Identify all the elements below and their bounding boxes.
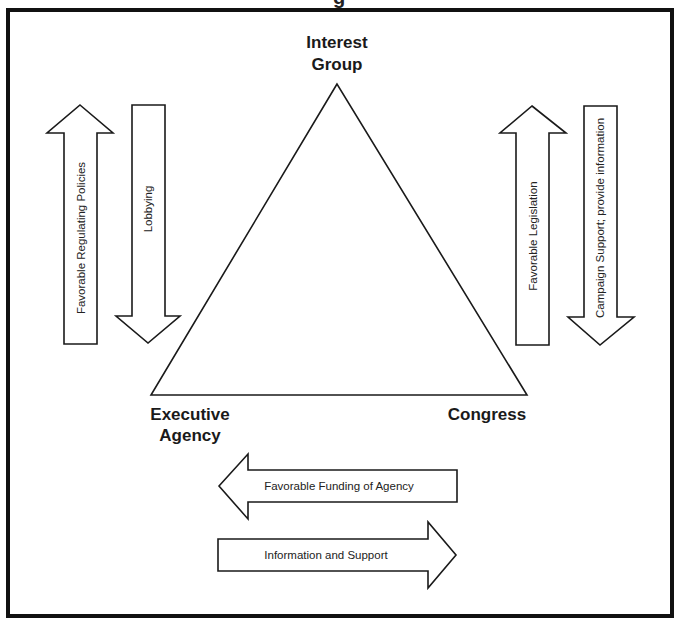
node-congress-label: Congress (448, 405, 526, 424)
node-congress: Congress (448, 405, 526, 424)
node-executive-agency-line2: Agency (159, 426, 221, 445)
arrow-label-favorable-funding: Favorable Funding of Agency (264, 480, 414, 492)
arrow-label-favorable-regulating-policies: Favorable Regulating Policies (75, 162, 87, 314)
arrow-information-support: Information and Support (218, 522, 456, 588)
arrow-favorable-funding: Favorable Funding of Agency (219, 454, 457, 519)
arrow-label-favorable-legislation: Favorable Legislation (527, 181, 539, 290)
diagram-title-cutoff: g (0, 0, 678, 9)
arrow-lobbying: Lobbying (116, 105, 180, 343)
node-executive-agency: Executive Agency (150, 405, 229, 445)
iron-triangle-diagram: g Interest Group Executive Agency Congre… (0, 0, 678, 620)
diagram-canvas: Interest Group Executive Agency Congress… (0, 0, 678, 620)
arrow-label-lobbying: Lobbying (142, 186, 154, 233)
node-interest-group-line1: Interest (306, 33, 368, 52)
arrow-label-information-support: Information and Support (264, 549, 388, 561)
iron-triangle-shape (151, 84, 527, 395)
node-executive-agency-line1: Executive (150, 405, 229, 424)
node-interest-group-line2: Group (312, 55, 363, 74)
arrow-favorable-regulating-policies: Favorable Regulating Policies (47, 105, 113, 344)
arrow-label-campaign-support: Campaign Support; provide information (594, 118, 606, 318)
arrow-favorable-legislation: Favorable Legislation (500, 106, 566, 345)
arrow-campaign-support: Campaign Support; provide information (568, 106, 634, 345)
node-interest-group: Interest Group (306, 33, 368, 74)
